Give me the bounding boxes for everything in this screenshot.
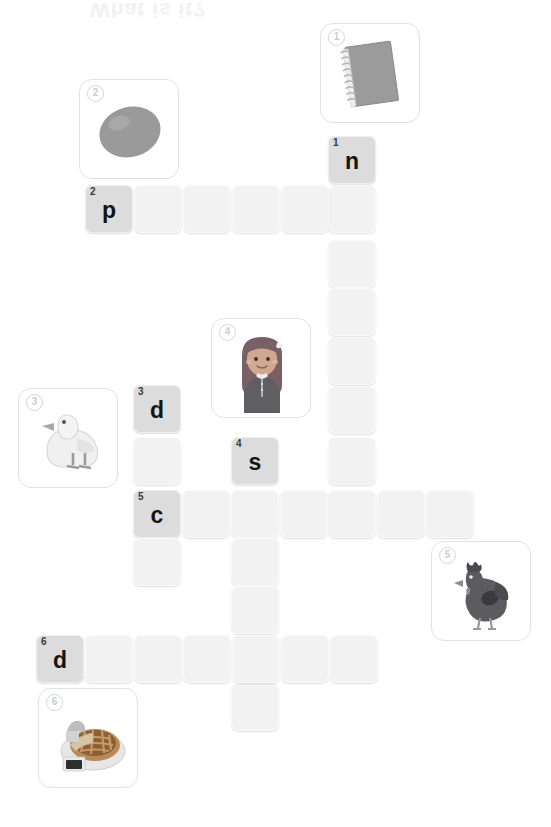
- crossword-cell-blank[interactable]: [232, 185, 280, 233]
- girl-icon: [218, 329, 306, 413]
- crossword-cell-blank[interactable]: [328, 337, 376, 385]
- cell-letter: d: [36, 649, 84, 672]
- hen-icon: [438, 552, 526, 636]
- pie-icon: [45, 699, 133, 783]
- crossword-cell-blank[interactable]: [426, 490, 474, 538]
- crossword-cell-blank[interactable]: [183, 635, 231, 683]
- cell-number: 6: [41, 637, 47, 647]
- cell-letter: s: [231, 451, 279, 474]
- crossword-cell-blank[interactable]: [328, 185, 376, 233]
- picture-clue-card[interactable]: 1: [320, 23, 420, 123]
- crossword-cell-blank[interactable]: [182, 490, 230, 538]
- cell-letter: d: [133, 399, 181, 422]
- crossword-cell-blank[interactable]: [328, 437, 376, 485]
- crossword-cell-answer[interactable]: 6d: [36, 635, 84, 683]
- crossword-cell-blank[interactable]: [183, 185, 231, 233]
- crossword-cell-blank[interactable]: [133, 437, 181, 485]
- duck-icon: [25, 399, 113, 483]
- ghost-title-bleed: What is it?: [90, 0, 420, 22]
- hen-icon: [438, 552, 526, 636]
- crossword-cell-answer[interactable]: 4s: [231, 437, 279, 485]
- crossword-cell-answer[interactable]: 1n: [328, 136, 376, 184]
- crossword-cell-blank[interactable]: [328, 288, 376, 336]
- cell-number: 3: [138, 387, 144, 397]
- crossword-cell-blank[interactable]: [328, 490, 376, 538]
- crossword-cell-blank[interactable]: [231, 538, 279, 586]
- crossword-cell-blank[interactable]: [231, 586, 279, 634]
- cell-letter: p: [85, 199, 133, 222]
- picture-clue-card[interactable]: 6: [38, 688, 138, 788]
- crossword-cell-blank[interactable]: [328, 386, 376, 434]
- cell-number: 2: [90, 187, 96, 197]
- picture-clue-card[interactable]: 3: [18, 388, 118, 488]
- cell-letter: n: [328, 150, 376, 173]
- crossword-cell-blank[interactable]: [134, 185, 182, 233]
- notebook-icon: [327, 34, 415, 118]
- pie-icon: [45, 699, 133, 783]
- notebook-icon: [327, 34, 415, 118]
- crossword-board: What is it? 1n2p3d4s5c6d 1 2 3 4: [0, 0, 551, 827]
- crossword-cell-blank[interactable]: [281, 635, 329, 683]
- crossword-cell-blank[interactable]: [328, 240, 376, 288]
- picture-clue-card[interactable]: 5: [431, 541, 531, 641]
- crossword-cell-blank[interactable]: [280, 490, 328, 538]
- girl-icon: [218, 329, 306, 413]
- crossword-cell-blank[interactable]: [134, 635, 182, 683]
- egg-icon: [86, 90, 174, 174]
- picture-clue-card[interactable]: 2: [79, 79, 179, 179]
- crossword-cell-blank[interactable]: [330, 635, 378, 683]
- duck-icon: [25, 399, 113, 483]
- crossword-cell-blank[interactable]: [231, 490, 279, 538]
- crossword-cell-blank[interactable]: [85, 635, 133, 683]
- crossword-cell-blank[interactable]: [133, 538, 181, 586]
- crossword-cell-answer[interactable]: 3d: [133, 385, 181, 433]
- crossword-cell-blank[interactable]: [231, 683, 279, 731]
- crossword-cell-blank[interactable]: [281, 185, 329, 233]
- picture-clue-card[interactable]: 4: [211, 318, 311, 418]
- egg-icon: [86, 90, 174, 174]
- crossword-cell-blank[interactable]: [377, 490, 425, 538]
- cell-number: 1: [333, 138, 339, 148]
- cell-letter: c: [133, 504, 181, 527]
- cell-number: 4: [236, 439, 242, 449]
- cell-number: 5: [138, 492, 144, 502]
- crossword-cell-answer[interactable]: 5c: [133, 490, 181, 538]
- crossword-cell-blank[interactable]: [232, 635, 280, 683]
- crossword-cell-answer[interactable]: 2p: [85, 185, 133, 233]
